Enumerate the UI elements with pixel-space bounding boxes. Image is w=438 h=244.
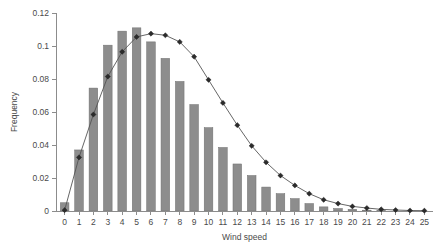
data-point-7: [163, 33, 168, 38]
y-tick-label-0: 0: [44, 206, 49, 216]
data-point-23: [393, 207, 398, 212]
y-axis-title: Frequency: [9, 91, 19, 132]
bar-10: [204, 128, 213, 211]
data-point-19: [335, 201, 340, 206]
x-tick-label-9: 9: [192, 217, 197, 227]
x-tick-label-2: 2: [91, 217, 96, 227]
x-tick-label-5: 5: [134, 217, 139, 227]
wind-speed-frequency-chart: 00.020.040.060.080.10.120123456789101112…: [0, 0, 438, 244]
x-tick-label-3: 3: [105, 217, 110, 227]
x-tick-label-15: 15: [276, 217, 286, 227]
data-point-17: [307, 191, 312, 196]
x-tick-label-20: 20: [348, 217, 358, 227]
x-axis-title: Wind speed: [222, 232, 267, 242]
bar-4: [118, 31, 127, 211]
bar-12: [233, 164, 242, 211]
bar-8: [175, 81, 184, 211]
x-tick-label-8: 8: [177, 217, 182, 227]
x-tick-label-16: 16: [290, 217, 300, 227]
data-point-6: [148, 31, 153, 36]
bar-15: [276, 194, 285, 211]
y-tick-label-5: 0.1: [37, 41, 49, 51]
bar-9: [190, 105, 199, 211]
chart-canvas: 00.020.040.060.080.10.120123456789101112…: [0, 0, 438, 244]
x-tick-label-12: 12: [233, 217, 243, 227]
data-point-10: [206, 77, 211, 82]
x-tick-label-6: 6: [149, 217, 154, 227]
x-tick-label-22: 22: [376, 217, 386, 227]
y-tick-label-4: 0.08: [32, 74, 49, 84]
bar-6: [147, 42, 156, 211]
y-tick-label-3: 0.06: [32, 107, 49, 117]
data-point-16: [292, 183, 297, 188]
data-point-18: [321, 197, 326, 202]
x-tick-label-14: 14: [261, 217, 271, 227]
bar-18: [319, 207, 328, 211]
data-point-12: [235, 123, 240, 128]
bar-17: [305, 204, 314, 211]
bar-7: [161, 58, 170, 211]
data-point-24: [407, 208, 412, 213]
bar-13: [247, 176, 256, 211]
x-tick-label-21: 21: [362, 217, 372, 227]
x-tick-label-19: 19: [333, 217, 343, 227]
x-tick-label-10: 10: [204, 217, 214, 227]
data-point-25: [422, 208, 427, 213]
data-point-20: [350, 204, 355, 209]
data-point-11: [220, 100, 225, 105]
data-point-21: [364, 205, 369, 210]
y-tick-label-6: 0.12: [32, 8, 49, 18]
x-tick-label-0: 0: [62, 217, 67, 227]
bar-16: [291, 199, 300, 211]
bar-14: [262, 187, 271, 211]
x-tick-label-13: 13: [247, 217, 257, 227]
bar-11: [219, 147, 228, 211]
x-tick-label-25: 25: [420, 217, 430, 227]
x-tick-label-1: 1: [77, 217, 82, 227]
x-tick-label-4: 4: [120, 217, 125, 227]
y-tick-label-1: 0.02: [32, 173, 49, 183]
y-tick-label-2: 0.04: [32, 140, 49, 150]
bar-3: [103, 45, 112, 211]
x-tick-label-23: 23: [391, 217, 401, 227]
x-tick-label-17: 17: [305, 217, 315, 227]
x-tick-label-18: 18: [319, 217, 329, 227]
bar-5: [132, 28, 141, 211]
x-tick-label-11: 11: [219, 217, 228, 227]
x-tick-label-24: 24: [405, 217, 415, 227]
x-tick-label-7: 7: [163, 217, 168, 227]
